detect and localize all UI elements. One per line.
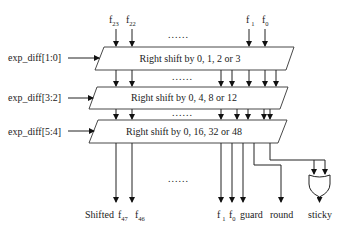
- out-f0-label: f0: [229, 209, 236, 222]
- or-gate-icon: [309, 175, 330, 197]
- stage-2-control-label: exp_diff[3:2]: [8, 92, 61, 103]
- sticky-label: sticky: [308, 209, 332, 220]
- stage-2: Right shift by 0, 4, 8 or 12 exp_diff[3:…: [8, 87, 288, 109]
- input-f22-label: f22: [126, 14, 136, 27]
- out-f46-label: f46: [135, 209, 146, 222]
- shifter-diagram: f23 f22 f1 f0 ...... Right shift by 0, 1…: [0, 0, 356, 236]
- shifted-label: Shifted: [85, 209, 114, 220]
- output-labels: Shifted f47 f46 f1 f0 guard round sticky: [85, 209, 332, 222]
- stage-1-to-2-arrows: ......: [116, 70, 276, 86]
- output-wires: ......: [116, 143, 325, 202]
- top-input-arrows: [116, 29, 265, 46]
- out-f1-label: f1: [217, 209, 226, 222]
- out-round-wire: [254, 143, 281, 202]
- input-f1-label: f1: [246, 14, 255, 27]
- stage-1-label: Right shift by 0, 1, 2 or 3: [140, 53, 241, 64]
- stage-3-control-label: exp_diff[5:4]: [8, 126, 61, 137]
- stage-1-control-label: exp_diff[1:0]: [8, 52, 61, 63]
- sticky-bus-wire: [270, 143, 325, 160]
- top-ellipsis: ......: [168, 29, 189, 40]
- ellipsis-1-2: ......: [172, 71, 193, 82]
- guard-label: guard: [240, 209, 263, 220]
- input-f0-label: f0: [262, 14, 269, 27]
- round-label: round: [270, 209, 293, 220]
- bottom-ellipsis: ......: [168, 173, 189, 184]
- out-f47-label: f47: [118, 209, 129, 222]
- stage-3: Right shift by 0, 16, 32 or 48 exp_diff[…: [8, 120, 287, 143]
- stage-3-label: Right shift by 0, 16, 32 or 48: [126, 126, 242, 137]
- stage-1: Right shift by 0, 1, 2 or 3 exp_diff[1:0…: [8, 47, 294, 70]
- top-input-labels: f23 f22 f1 f0 ......: [109, 14, 269, 40]
- input-f23-label: f23: [109, 14, 119, 27]
- ellipsis-2-3: ......: [172, 107, 193, 118]
- stage-2-label: Right shift by 0, 4, 8 or 12: [131, 92, 237, 103]
- or-gate: [309, 175, 330, 202]
